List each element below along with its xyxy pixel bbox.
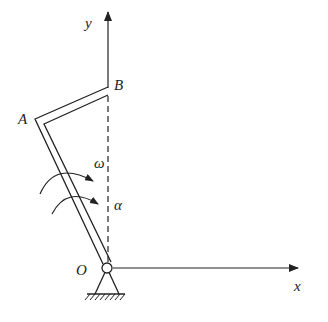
- alpha-label: α: [114, 197, 123, 213]
- mechanism-diagram: y x B A O ω α: [0, 0, 328, 322]
- rotation-arrows: [40, 173, 98, 214]
- bent-rod: [35, 87, 111, 264]
- point-b-label: B: [114, 77, 123, 93]
- x-axis-label: x: [293, 278, 301, 294]
- y-axis-label: y: [83, 15, 92, 31]
- origin-label: O: [76, 262, 87, 278]
- omega-label: ω: [94, 155, 105, 171]
- point-a-label: A: [17, 111, 28, 127]
- hinge-circle: [102, 263, 112, 273]
